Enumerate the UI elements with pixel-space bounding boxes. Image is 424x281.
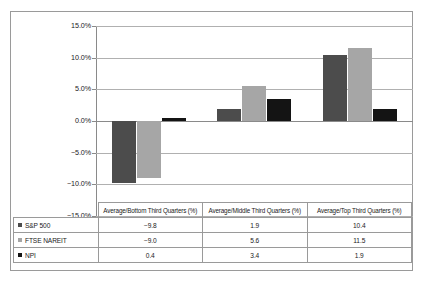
table-cell-value: 3.4 [203,248,308,263]
table-header-top-third: Average/Top Third Quarters (%) [307,203,412,218]
table-header-legend-blank [14,203,99,218]
data-table-grid: Average/Bottom Third Quarters (%) Averag… [13,202,412,263]
table-cell-value: 10.4 [307,218,412,233]
y-axis-tick-labels: 15.0%10.0%5.0%0.0%−5.0%−10.0%−15.0% [11,26,91,216]
table-header-middle-third: Average/Middle Third Quarters (%) [203,203,308,218]
table-row: FTSE NAREIT−9.05.611.5 [14,233,412,248]
legend-label: S&P 500 [25,222,50,229]
legend-item-npi: NPI [14,248,99,263]
legend-label: NPI [25,252,36,259]
legend-item-ftse-nareit: FTSE NAREIT [14,233,99,248]
legend-label: FTSE NAREIT [25,237,67,244]
table-cell-value: 11.5 [307,233,412,248]
bar [373,109,397,121]
bar [348,48,372,121]
bar-group [307,26,413,216]
y-tick-label: 15.0% [21,22,91,29]
y-tick-label: −10.0% [21,180,91,187]
table-row: NPI0.43.41.9 [14,248,412,263]
table-header-row: Average/Bottom Third Quarters (%) Averag… [14,203,412,218]
table-cell-value: −9.8 [98,218,203,233]
bar-group [202,26,308,216]
bar [323,55,347,121]
legend-swatch-icon [18,253,22,257]
bar [217,109,241,121]
bar [137,121,161,178]
plot-area [96,26,413,216]
chart-figure: 15.0%10.0%5.0%0.0%−5.0%−10.0%−15.0% Aver… [10,11,413,271]
bar [162,118,186,121]
bar [267,99,291,121]
y-tick-label: −5.0% [21,149,91,156]
y-tick-label: 10.0% [21,54,91,61]
table-cell-value: 5.6 [203,233,308,248]
table-row: S&P 500−9.81.910.4 [14,218,412,233]
legend-item-s-p-500: S&P 500 [14,218,99,233]
y-tick-label: 5.0% [21,85,91,92]
legend-swatch-icon [18,238,22,242]
bar-group [96,26,202,216]
table-body: S&P 500−9.81.910.4FTSE NAREIT−9.05.611.5… [14,218,412,263]
y-tick-label: 0.0% [21,117,91,124]
table-cell-value: 0.4 [98,248,203,263]
bar [112,121,136,183]
table-cell-value: 1.9 [307,248,412,263]
bar [242,86,266,121]
table-cell-value: −9.0 [98,233,203,248]
legend-swatch-icon [18,223,22,227]
data-table: Average/Bottom Third Quarters (%) Averag… [13,202,412,270]
table-header-bottom-third: Average/Bottom Third Quarters (%) [98,203,203,218]
table-cell-value: 1.9 [203,218,308,233]
